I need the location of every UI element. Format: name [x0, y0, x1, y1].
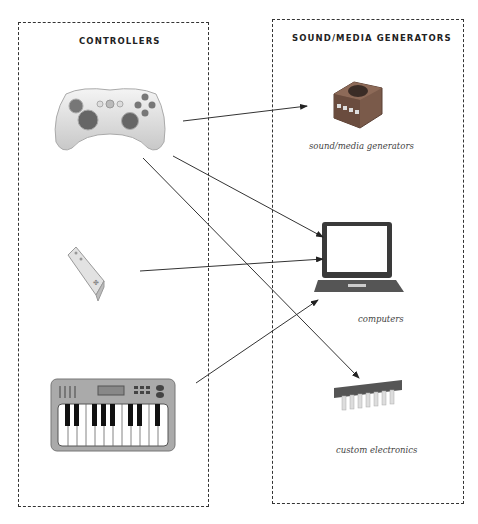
arrow-gamepad-to-console [183, 106, 307, 121]
arrows-layer [0, 0, 478, 524]
arrow-gamepad-to-laptop [173, 156, 323, 237]
arrow-keyboard-to-laptop [196, 300, 318, 383]
arrow-wii-to-laptop [140, 259, 323, 271]
